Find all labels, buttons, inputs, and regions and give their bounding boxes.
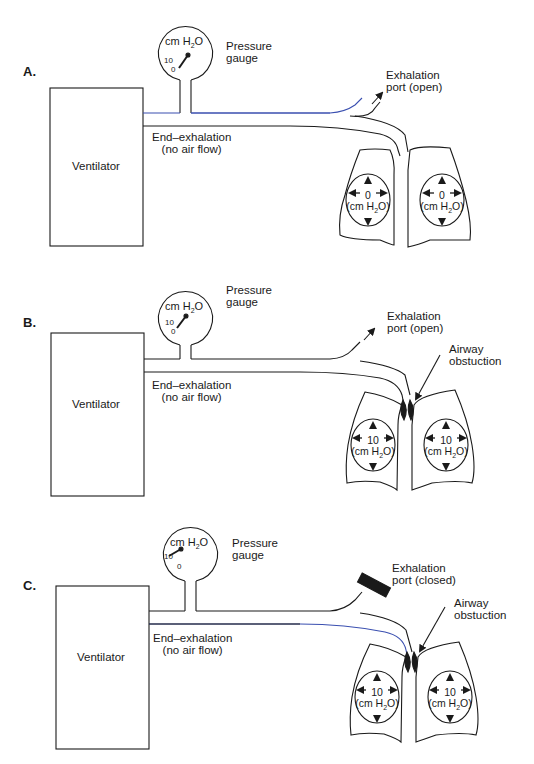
ventilator-box <box>51 333 144 496</box>
pressure-gauge-label-line1: Pressure <box>226 284 272 296</box>
lung-pressure-right: 10(cm H2O) <box>421 435 471 461</box>
flow-label-line2: (no air flow) <box>153 644 232 656</box>
gauge-unit-prefix: cm H <box>165 35 191 47</box>
ventilator-label: Ventilator <box>77 651 125 663</box>
gauge-tick-10: 10 <box>164 56 173 65</box>
closed-port-cap <box>358 573 391 597</box>
pressure-gauge-label-line2: gauge <box>226 296 272 308</box>
airway-obstruction-label: Airwayobstuction <box>454 597 506 621</box>
lung-unit-prefix: (cm H <box>428 697 456 709</box>
port-label-line2: port (open) <box>386 81 442 93</box>
port-label-line1: Exhalation <box>387 310 443 322</box>
flow-label-line1: End–exhalation <box>153 632 232 644</box>
ventilator-label: Ventilator <box>72 398 120 410</box>
exhalation-port-label: Exhalationport (closed) <box>392 562 456 586</box>
obstruction-label-line2: obstuction <box>454 609 506 621</box>
lung-unit-prefix: (cm H <box>351 445 379 457</box>
port-label-line2: port (open) <box>387 322 443 334</box>
gauge-unit-suffix: O <box>195 35 204 47</box>
lung-pressure-left: 10(cm H2O) <box>348 435 398 461</box>
gauge-unit-c: cm H2O <box>170 536 208 550</box>
pressure-gauge-label-line1: Pressure <box>226 40 272 52</box>
flow-label: End–exhalation(no air flow) <box>152 131 231 155</box>
ventilator-label: Ventilator <box>72 160 120 172</box>
gauge-unit-b: cm H2O <box>165 300 203 314</box>
flow-label-line1: End–exhalation <box>152 379 231 391</box>
port-label-line1: Exhalation <box>392 562 456 574</box>
flow-label: End–exhalation(no air flow) <box>152 379 231 403</box>
pressure-gauge-label-line1: Pressure <box>232 537 278 549</box>
lung-unit-suffix: O) <box>383 445 395 457</box>
gauge-tick-10: 10 <box>165 318 174 327</box>
gauge-tick-0: 0 <box>171 327 175 336</box>
pressure-gauge-label: Pressuregauge <box>226 284 272 308</box>
lung-unit-suffix: O) <box>452 200 464 212</box>
panel-letter-a: A. <box>23 64 36 79</box>
lung-unit-prefix: (cm H <box>424 445 452 457</box>
lung-unit-prefix: (cm H <box>355 697 383 709</box>
flow-label-line1: End–exhalation <box>152 131 231 143</box>
lung-unit-prefix: (cm H <box>420 200 448 212</box>
obstruction-label-line2: obstuction <box>449 355 501 367</box>
pressure-gauge-label: Pressuregauge <box>226 40 272 64</box>
gauge-unit-prefix: cm H <box>165 300 191 312</box>
lung-pressure-left: 10(cm H2O) <box>352 687 402 713</box>
gauge-unit-a: cm H2O <box>165 35 203 49</box>
lung-unit-suffix: O) <box>387 697 399 709</box>
gauge-unit-suffix: O <box>200 536 209 548</box>
pressure-gauge-label: Pressuregauge <box>232 537 278 561</box>
lung-unit-prefix: (cm H <box>346 200 374 212</box>
panel-letter-b: B. <box>23 315 36 330</box>
gauge-unit-prefix: cm H <box>170 536 196 548</box>
port-label-line2: port (closed) <box>392 574 456 586</box>
gauge-tick-10: 10 <box>164 552 173 561</box>
airway-obstruction-label: Airwayobstuction <box>449 343 501 367</box>
flow-label-line2: (no air flow) <box>152 143 231 155</box>
exhalation-port-label: Exhalationport (open) <box>387 310 443 334</box>
lung-unit-suffix: O) <box>456 445 468 457</box>
diagram-line-art <box>0 0 534 764</box>
lung-pressure-right: 0(cm H2O) <box>417 190 467 216</box>
lung-pressure-right: 10(cm H2O) <box>425 687 475 713</box>
pressure-gauge-label-line2: gauge <box>232 549 278 561</box>
gauge-tick-0: 0 <box>177 562 181 571</box>
flow-label-line2: (no air flow) <box>152 391 231 403</box>
pressure-gauge-label-line2: gauge <box>226 52 272 64</box>
lung-pressure-left: 0(cm H2O) <box>343 190 393 216</box>
port-label-line1: Exhalation <box>386 69 442 81</box>
exhalation-port-label: Exhalationport (open) <box>386 69 442 93</box>
panel-letter-c: C. <box>23 578 36 593</box>
lung-unit-suffix: O) <box>460 697 472 709</box>
flow-label: End–exhalation(no air flow) <box>153 632 232 656</box>
obstruction-label-line1: Airway <box>449 343 501 355</box>
obstruction-label-line1: Airway <box>454 597 506 609</box>
gauge-unit-suffix: O <box>195 300 204 312</box>
lung-unit-suffix: O) <box>378 200 390 212</box>
ventilator-box <box>56 586 149 749</box>
gauge-tick-0: 0 <box>171 65 175 74</box>
